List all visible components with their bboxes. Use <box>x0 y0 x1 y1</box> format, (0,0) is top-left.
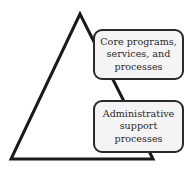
core-line-2: services, and <box>100 48 176 61</box>
administrative-support-label: Administrative support processes <box>103 108 175 146</box>
administrative-support-box: Administrative support processes <box>93 100 184 153</box>
core-programs-box: Core programs, services, and processes <box>93 29 184 80</box>
admin-line-1: Administrative <box>103 108 175 121</box>
core-programs-label: Core programs, services, and processes <box>100 36 176 74</box>
admin-line-3: processes <box>103 133 175 146</box>
admin-line-2: support <box>103 120 175 133</box>
pyramid-diagram: Core programs, services, and processes A… <box>0 0 195 171</box>
core-line-1: Core programs, <box>100 36 176 49</box>
core-line-3: processes <box>100 61 176 74</box>
